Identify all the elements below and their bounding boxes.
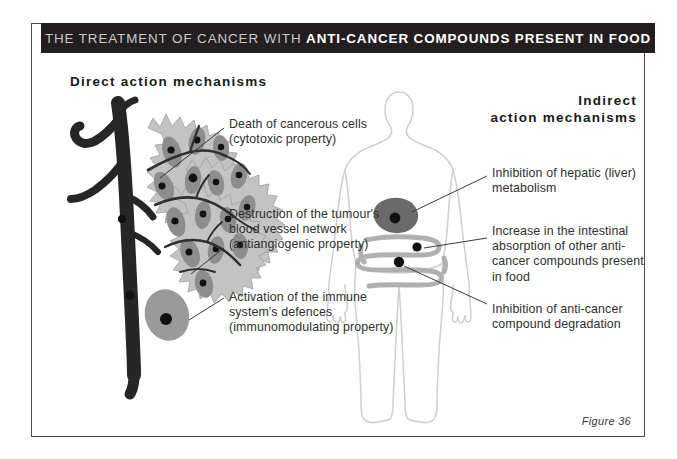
label-intestinal-absorption: Increase in the intestinal absorption of… (492, 224, 657, 285)
figure-title-bar: THE TREATMENT OF CANCER WITH ANTI-CANCER… (41, 23, 655, 53)
figure-caption: Figure 36 (582, 415, 631, 427)
label-antiangiogenic-property: Destruction of the tumour's blood vessel… (229, 207, 389, 253)
heading-indirect-action-mechanisms: Indirect action mechanisms (490, 92, 637, 126)
heading-direct-action-mechanisms: Direct action mechanisms (70, 73, 267, 90)
figure-title-emphasis: ANTI-CANCER COMPOUNDS PRESENT IN FOOD (306, 31, 651, 46)
label-hepatic-metabolism: Inhibition of hepatic (liver) metabolism (492, 166, 652, 196)
label-cytotoxic-property: Death of cancerous cells (cytotoxic prop… (229, 117, 404, 147)
label-compound-degradation: Inhibition of anti-cancer compound degra… (492, 302, 660, 332)
figure-title-lead: THE TREATMENT OF CANCER WITH (45, 31, 306, 46)
figure-title: THE TREATMENT OF CANCER WITH ANTI-CANCER… (45, 29, 651, 47)
heading-indirect-line2: action mechanisms (490, 109, 637, 126)
heading-indirect-line1: Indirect (490, 92, 637, 109)
label-immunomodulating-property: Activation of the immune system's defenc… (229, 290, 404, 336)
